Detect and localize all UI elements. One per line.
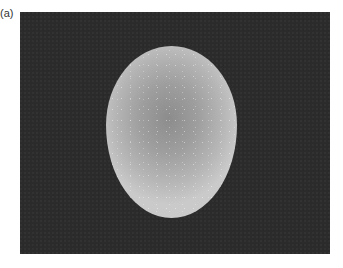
- egg: [106, 46, 237, 218]
- panel-label: (a): [0, 8, 13, 19]
- egg-photo: [20, 12, 330, 254]
